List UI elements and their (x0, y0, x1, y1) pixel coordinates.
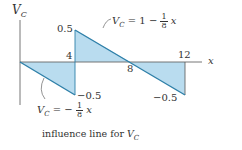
y-axis-label: VC (12, 4, 27, 19)
x-axis-label: x (208, 56, 214, 66)
tick-top: 0.5 (57, 24, 73, 34)
leader-left (41, 78, 45, 99)
equation-right: VC = 1 − 18 x (112, 13, 176, 30)
tick-x4: 4 (66, 51, 72, 61)
tick-x8: 8 (127, 64, 133, 74)
tick-left-bottom: −0.5 (77, 91, 101, 101)
caption: influence line for VC (42, 129, 139, 142)
leader-right (103, 19, 111, 28)
tick-right-bottom: −0.5 (153, 93, 177, 103)
tick-x12: 12 (178, 50, 191, 60)
equation-left: VC = − 18 x (37, 102, 92, 119)
